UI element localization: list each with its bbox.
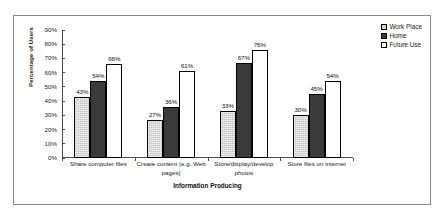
y-axis-tick-label: 40% [45,96,57,105]
y-axis-tick-label: 70% [45,53,57,62]
bar[interactable] [309,94,325,158]
bar-slot: 36% [163,30,179,158]
x-axis-category-label: Store files on internet [280,160,353,177]
bar-slot: 76% [252,30,268,158]
bar-value-label: 27% [149,111,161,119]
bar-value-label: 61% [181,62,193,70]
legend-swatch-icon [381,24,387,30]
y-axis-tick-label: 30% [45,110,57,119]
bar[interactable] [90,81,106,158]
bar-value-label: 67% [238,54,250,62]
bar-slot: 54% [325,30,341,158]
bar-groups: 43%54%66%27%36%61%33%67%76%30%45%54% [62,30,353,158]
bar-slot: 45% [309,30,325,158]
bar-value-label: 76% [254,41,266,49]
legend-swatch-icon [381,42,387,48]
y-axis-tick-label: 60% [45,68,57,77]
legend-item[interactable]: Future Use [381,40,422,49]
legend-item[interactable]: Work Place [381,22,422,31]
bar[interactable] [74,97,90,158]
bar[interactable] [106,64,122,158]
bar-value-label: 45% [310,85,322,93]
y-axis-tick-label: 20% [45,125,57,134]
bar-value-label: 33% [222,102,234,110]
x-axis-title: Information Producing [62,182,353,189]
x-axis-category-labels: Share computer filesCreate content (e.g.… [62,160,353,177]
x-axis-category-label: Create content (e.g. Web pages) [135,160,208,177]
y-axis-title: Percentage of Users [28,2,34,112]
y-axis-tick-label: 90% [45,25,57,34]
bar-group: 27%36%61% [135,30,208,158]
bar[interactable] [236,63,252,158]
bar[interactable] [325,81,341,158]
bar-value-label: 30% [294,106,306,114]
legend-label: Work Place [389,22,422,31]
bar[interactable] [220,111,236,158]
bar-value-label: 43% [76,88,88,96]
legend-label: Future Use [389,40,421,49]
bar[interactable] [163,107,179,158]
y-axis-tick-label: 50% [45,82,57,91]
bar-value-label: 36% [165,98,177,106]
bar-value-label: 54% [92,72,104,80]
bar-slot: 43% [74,30,90,158]
bar-slot: 67% [236,30,252,158]
plot-area: 0%10%20%30%40%50%60%70%80%90% 43%54%66%2… [62,30,353,158]
bar[interactable] [293,115,309,158]
bar-slot: 33% [220,30,236,158]
legend-swatch-icon [381,33,387,39]
bar-value-label: 66% [108,55,120,63]
bar-slot: 30% [293,30,309,158]
legend-item[interactable]: Home [381,31,422,40]
bar[interactable] [252,50,268,158]
bar-slot: 27% [147,30,163,158]
bar-slot: 66% [106,30,122,158]
x-axis-category-label: Store/display/develop photos [208,160,281,177]
bar-group: 30%45%54% [280,30,353,158]
bar[interactable] [179,71,195,158]
bar-group: 33%67%76% [208,30,281,158]
x-axis-tick-mark [353,158,354,161]
bar-slot: 61% [179,30,195,158]
chart-container: Percentage of Users 0%10%20%30%40%50%60%… [13,15,431,205]
legend-label: Home [389,31,406,40]
bar[interactable] [147,120,163,158]
bar-group: 43%54%66% [62,30,135,158]
chart-legend: Work PlaceHomeFuture Use [381,22,422,49]
y-axis-tick-label: 10% [45,139,57,148]
bar-value-label: 54% [326,72,338,80]
y-axis-tick-label: 0% [48,153,57,162]
y-axis-tick-label: 80% [45,39,57,48]
x-axis-category-label: Share computer files [62,160,135,177]
bar-slot: 54% [90,30,106,158]
